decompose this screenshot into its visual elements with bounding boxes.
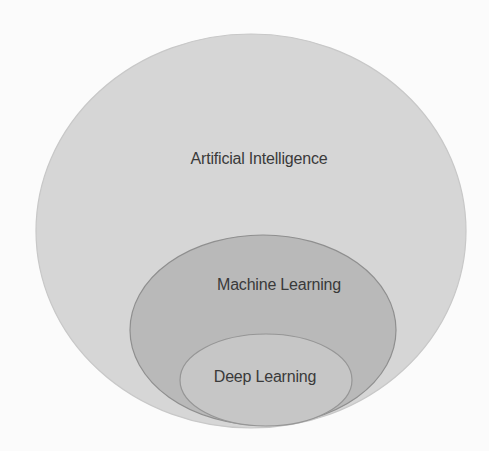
ml-label: Machine Learning [217,276,341,294]
ai-label: Artificial Intelligence [191,150,328,168]
dl-label: Deep Learning [214,368,316,386]
diagram-canvas: Artificial Intelligence Machine Learning… [0,0,489,451]
